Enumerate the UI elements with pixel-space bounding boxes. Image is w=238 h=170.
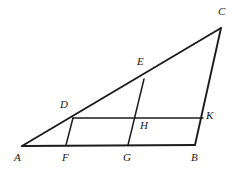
vertex-label-c: C [218, 6, 225, 17]
vertex-label-e: E [137, 56, 144, 67]
vertex-label-b: B [191, 152, 198, 163]
geometry-canvas [0, 0, 238, 170]
vertex-label-a: A [14, 152, 21, 163]
segment-AC-hypotenuse [22, 28, 221, 146]
vertex-label-h: H [140, 120, 148, 131]
vertex-label-d: D [60, 99, 68, 110]
geometry-figure: ABCDEFGHK [0, 0, 238, 170]
segment-DF-cevian [66, 118, 73, 145]
vertex-label-g: G [123, 152, 131, 163]
segment-AB-base [22, 145, 195, 146]
vertex-label-k: K [206, 110, 213, 121]
segments-group [22, 28, 221, 146]
vertex-label-f: F [62, 152, 69, 163]
segment-EG-cevian [128, 79, 144, 145]
segment-CB-right-side [195, 28, 221, 145]
